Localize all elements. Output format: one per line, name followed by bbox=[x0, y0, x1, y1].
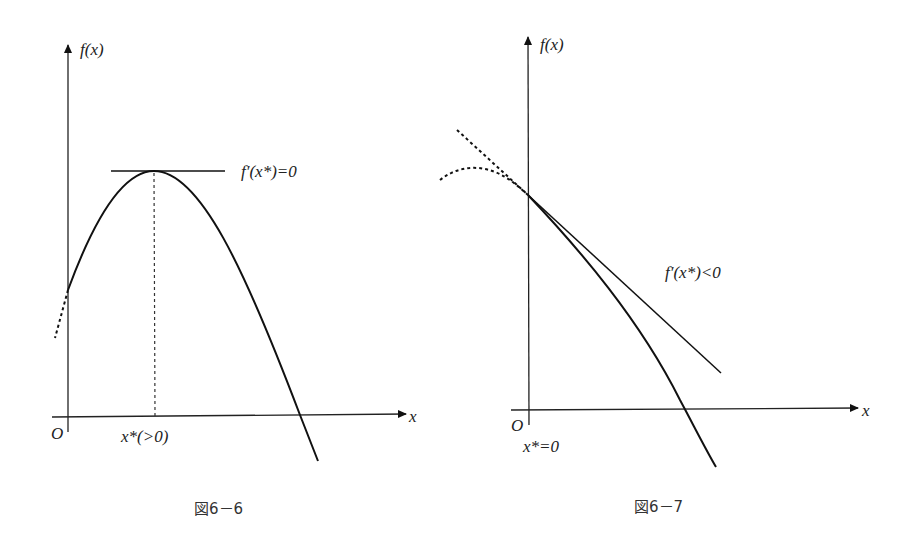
x-axis-label: x bbox=[861, 401, 870, 420]
y-axis-label: f(x) bbox=[540, 35, 564, 54]
x-star-label: x*(>0) bbox=[120, 427, 169, 446]
curve-extension-dashed bbox=[55, 290, 68, 338]
figure-canvas: f(x) x O f′(x*)=0 x*(>0) 図6－6 f(x) x O f… bbox=[0, 0, 915, 544]
x-axis-label: x bbox=[408, 407, 417, 426]
x-axis bbox=[52, 414, 406, 417]
y-axis bbox=[528, 37, 529, 425]
concave-curve bbox=[528, 195, 716, 467]
tangent-label: f′(x*)<0 bbox=[665, 263, 721, 282]
tangent-label: f′(x*)=0 bbox=[241, 162, 297, 181]
concave-curve bbox=[68, 171, 318, 461]
tangent-line bbox=[528, 195, 721, 373]
y-axis-label: f(x) bbox=[80, 40, 104, 59]
origin-label: O bbox=[511, 416, 523, 435]
figure-6-7: f(x) x O f′(x*)<0 x*=0 図6－7 bbox=[440, 35, 870, 516]
figure-6-6: f(x) x O f′(x*)=0 x*(>0) 図6－6 bbox=[51, 40, 417, 518]
figure-caption: 図6－6 bbox=[194, 500, 243, 518]
curve-extension-dashed bbox=[440, 168, 528, 195]
x-star-label: x*=0 bbox=[522, 437, 560, 456]
origin-label: O bbox=[51, 424, 63, 443]
figure-caption: 図6－7 bbox=[634, 498, 683, 516]
peak-drop-line bbox=[154, 173, 155, 416]
